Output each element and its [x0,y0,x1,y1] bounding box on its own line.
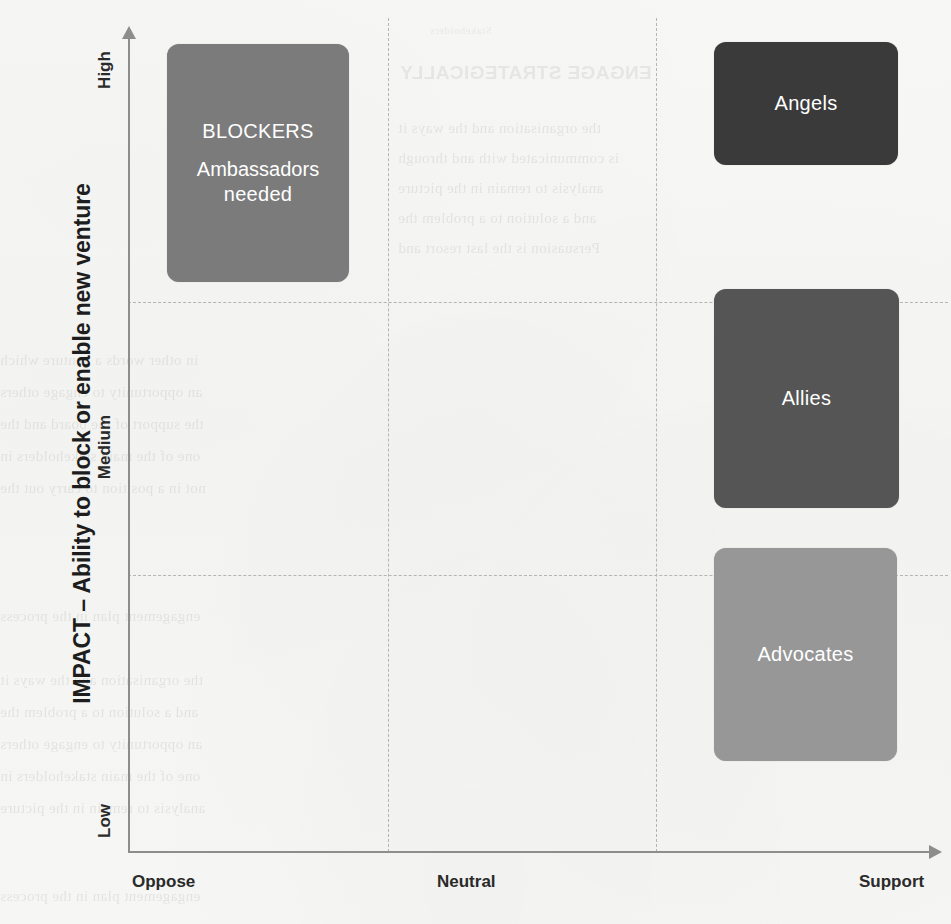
y-axis-tick-medium: Medium [95,397,115,497]
quadrant-box-blockers[interactable]: BLOCKERS Ambassadors needed [167,44,349,282]
quadrant-box-angels[interactable]: Angels [714,42,898,165]
quadrant-box-angels-title: Angels [775,91,838,116]
y-axis-arrow-icon [122,26,136,39]
x-axis-tick-oppose: Oppose [132,872,195,892]
quadrant-box-allies[interactable]: Allies [714,289,899,508]
y-axis-tick-high: High [95,25,115,115]
y-axis-title: IMPACT – Ability to block or enable new … [69,44,96,844]
y-axis-tick-low: Low [95,779,115,863]
x-axis-tick-neutral: Neutral [437,872,496,892]
ghost-text: in other words a venture which [0,352,198,369]
x-axis-arrow-icon [929,845,942,859]
ghost-text: the organisation and the ways it [0,672,203,689]
ghost-text: analysis to remain in the picture [398,180,603,197]
quadrant-box-advocates-title: Advocates [757,642,853,667]
quadrant-box-blockers-subtitle-line2: needed [224,182,293,207]
ghost-text: and a solution to a problem the [0,704,198,721]
ghost-text: ENGAGE STRATEGICALLY [400,62,652,84]
gridline-vertical-oppose-neutral [388,18,389,852]
ghost-text: is communicated with and through [398,150,619,167]
ghost-text: the organisation and the ways it [398,120,601,137]
ghost-text: and a solution to a problem the [398,210,596,227]
stakeholder-matrix-figure: Stakeholders ENGAGE STRATEGICALLY the or… [0,0,951,924]
gridline-vertical-neutral-support [656,18,657,852]
y-axis-line [128,34,130,853]
quadrant-box-allies-title: Allies [782,386,832,411]
quadrant-box-blockers-subtitle-line1: Ambassadors [197,157,319,181]
x-axis-tick-support: Support [859,872,924,892]
ghost-text: an opportunity to engage others [0,736,202,753]
ghost-text: Stakeholders [430,24,492,36]
x-axis-line [128,851,933,853]
ghost-text: Persuasion is the last resort and [398,240,600,257]
quadrant-box-advocates[interactable]: Advocates [714,548,897,761]
ghost-text: engagement plan in the process [0,608,200,625]
quadrant-box-blockers-title: BLOCKERS [202,119,313,144]
